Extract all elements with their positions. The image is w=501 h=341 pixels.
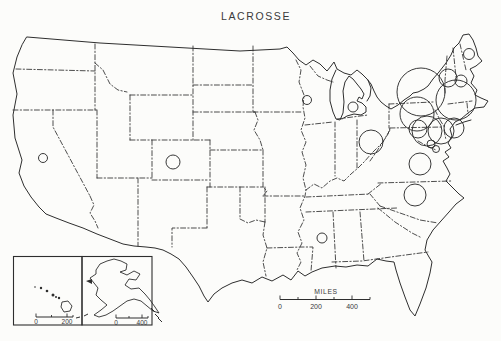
state-boundaries: [13, 44, 472, 276]
scale-num-200: 200: [310, 303, 322, 310]
main-scale-bar: MILES 0 200 400: [278, 288, 370, 310]
hawaii-scale-0: 0: [34, 318, 38, 325]
symbol-circle-michigan: [348, 102, 358, 112]
symbol-circle-ohio: [359, 130, 383, 154]
symbol-circle-southern-new-england: [436, 80, 476, 120]
symbol-circle-wisconsin: [303, 96, 312, 105]
hawaii-scale-200: 200: [62, 318, 73, 325]
symbol-circle-colorado: [166, 155, 180, 169]
lacrosse-map-page: LACROSSE: [0, 0, 501, 341]
symbol-circle-vermont-new-hampshire: [439, 69, 457, 87]
alaska-scale-bar: 0 400: [114, 315, 148, 327]
symbol-circle-california: [39, 154, 48, 163]
scale-num-400: 400: [346, 303, 358, 310]
map-canvas: LACROSSE: [0, 0, 501, 341]
alaska-shape: [76, 259, 162, 322]
hawaii-islands: [34, 286, 72, 312]
inset-panel: 0 200 0 400: [14, 257, 163, 327]
scale-num-0: 0: [278, 303, 282, 310]
symbol-circle-virginia: [409, 153, 431, 175]
hawaii-scale-bar: 0 200: [34, 314, 73, 326]
miles-label: MILES: [314, 288, 337, 295]
alaska-scale-0: 0: [114, 319, 118, 326]
aleutian-marks: [76, 308, 162, 322]
symbol-circle-north-carolina: [404, 184, 426, 206]
lake-michigan-shore: [330, 70, 366, 120]
symbol-layer: [39, 49, 477, 244]
symbol-circle-maine: [464, 49, 475, 60]
symbol-circle-mississippi: [317, 233, 327, 243]
seward-peninsula: [86, 279, 92, 284]
alaska-scale-400: 400: [137, 319, 148, 326]
page-title: LACROSSE: [221, 10, 291, 22]
